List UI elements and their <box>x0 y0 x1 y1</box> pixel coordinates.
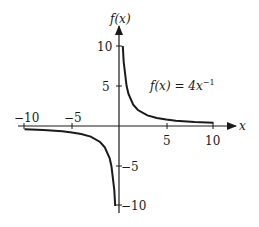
x-tick-label: −10 <box>14 111 39 125</box>
x-axis-label: x <box>239 119 246 133</box>
x-tick-label: 5 <box>163 134 171 148</box>
function-graph: −10 −5 5 10 10 5 −5 −10 f(x) x f(x) = 4x… <box>0 0 259 227</box>
equation-label: f(x) = 4x−1 <box>149 78 214 93</box>
x-tick-label: 10 <box>205 134 220 148</box>
x-tick-label: −5 <box>64 111 82 125</box>
y-tick-label: 10 <box>97 40 112 54</box>
curve-branch-negative <box>25 129 116 206</box>
y-tick-label: 5 <box>102 80 110 94</box>
y-axis-label: f(x) <box>109 12 131 26</box>
y-tick-label: −10 <box>121 199 146 213</box>
y-tick-label: −5 <box>121 160 139 174</box>
